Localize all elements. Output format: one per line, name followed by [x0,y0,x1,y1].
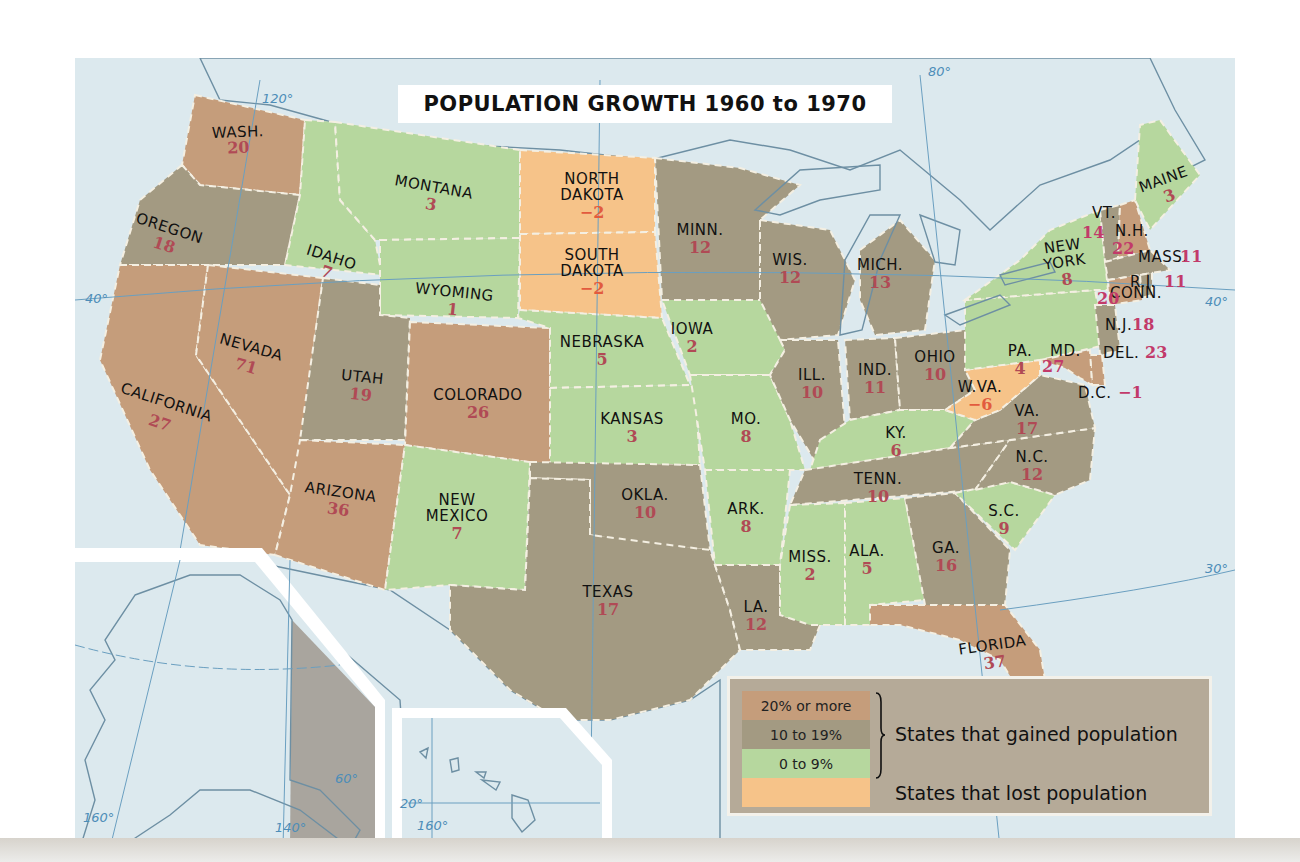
lat-40-west-label: 40° [85,291,108,306]
state-name-north-carolina: N.C. [1015,448,1048,466]
state-value-arizona: 36 [326,498,351,520]
state-label-louisiana: LA.12 [744,598,769,634]
state-value-louisiana: 12 [745,615,767,634]
state-value-south-carolina: 9 [998,519,1009,538]
state-name-georgia: GA. [932,539,960,557]
state-name-missouri: MO. [731,410,761,428]
legend-label-10-19: 10 to 19% [770,727,842,743]
state-name-south-dakota: DAKOTA [560,262,624,280]
state-name-iowa: IOWA [671,320,714,338]
lon-120-label: 120° [262,91,293,106]
state-value-new-jersey: 18 [1132,315,1154,334]
state-value-vermont: 14 [1082,223,1104,242]
state-value-georgia: 16 [935,556,957,575]
state-name-alabama: ALA. [849,542,885,560]
state-label-illinois: ILL.10 [798,366,826,402]
state-name-tennessee: TENN. [853,470,902,488]
state-value-north-carolina: 12 [1021,465,1043,484]
state-name-minnesota: MINN. [676,221,723,239]
state-name-wisconsin: WIS. [772,251,808,269]
state-value-massachusetts: 11 [1180,247,1202,266]
state-value-oklahoma: 10 [634,503,656,522]
state-value-west-virginia: −6 [968,395,993,414]
state-value-maryland: 27 [1042,357,1064,376]
state-value-arkansas: 8 [740,517,751,536]
state-value-michigan: 13 [869,273,891,292]
state-value-pennsylvania: 4 [1014,359,1025,378]
state-value-kentucky: 6 [890,441,901,460]
state-value-south-dakota: −2 [580,279,605,298]
lat-40-east-label: 40° [1205,294,1228,309]
hawaii-inset: 20° 160° [392,708,612,848]
state-value-connecticut: 20 [1097,289,1119,308]
state-name-texas: TEXAS [581,583,633,601]
hi-lon-160-label: 160° [417,818,448,833]
state-name-kentucky: KY. [885,424,907,442]
map-title-box: POPULATION GROWTH 1960 to 1970 [398,85,892,123]
state-value-tennessee: 10 [867,487,889,506]
state-value-mississippi: 2 [804,565,815,584]
legend-swatch-loss [742,778,870,807]
state-name-louisiana: LA. [744,598,769,616]
lon-80-label: 80° [928,64,951,79]
ak-lon-140-label: 140° [275,820,306,835]
state-value-indiana: 11 [864,378,886,397]
state-value-illinois: 10 [801,383,823,402]
lat-30-label: 30° [1205,561,1228,576]
legend-label-20-plus: 20% or more [761,698,852,714]
state-value-florida: 37 [982,651,1007,673]
state-value-ohio: 10 [924,365,946,384]
legend-label-0-9: 0 to 9% [779,756,833,772]
state-name-kansas: KANSAS [600,410,664,428]
state-name-arkansas: ARK. [727,500,764,518]
state-value-kansas: 3 [626,427,637,446]
legend-swatch-20-plus: 20% or more [742,691,870,720]
state-name-virginia: VA. [1014,402,1040,420]
state-value-alabama: 5 [861,559,872,578]
state-value-missouri: 8 [740,427,751,446]
state-value-iowa: 2 [686,337,697,356]
state-value-rhode-island: 11 [1164,272,1186,291]
state-label-georgia: GA.16 [932,539,960,575]
state-value-wyoming: 1 [446,299,459,319]
legend: 20% or more 10 to 19% 0 to 9% States tha… [727,676,1212,816]
state-name-new-jersey: N.J. [1105,316,1132,334]
state-name-vermont: VT. [1092,204,1116,222]
state-value-delaware: 23 [1145,343,1167,362]
state-name-mississippi: MISS. [788,548,832,566]
state-name-nebraska: NEBRASKA [560,333,645,351]
state-name-west-virginia: W.VA. [958,378,1002,396]
legend-swatch-10-19: 10 to 19% [742,720,870,749]
state-name-new-hampshire: N.H. [1115,222,1149,240]
state-name-colorado: COLORADO [433,386,522,404]
state-value-virginia: 17 [1016,419,1038,438]
state-value-new-mexico: 7 [451,524,462,543]
ak-lon-160-label: 160° [83,810,114,825]
state-value-district-of-columbia: −1 [1118,383,1143,402]
state-name-illinois: ILL. [798,366,826,384]
state-name-district-of-columbia: D.C. [1078,384,1112,402]
state-value-new-hampshire: 22 [1112,239,1134,258]
bottom-edge [0,838,1300,862]
legend-lost-label: States that lost population [895,782,1147,804]
state-value-nebraska: 5 [596,350,607,369]
state-value-minnesota: 12 [689,238,711,257]
state-label-virginia: VA.17 [1014,402,1040,438]
hi-lat-20-label: 20° [400,796,423,811]
state-name-south-carolina: S.C. [988,502,1020,520]
state-value-wash: 20 [227,138,250,158]
state-name-oklahoma: OKLA. [621,486,669,504]
state-name-indiana: IND. [858,361,892,379]
state-name-ohio: OHIO [914,348,955,366]
legend-brace [875,692,885,779]
state-value-wisconsin: 12 [779,268,801,287]
map-title: POPULATION GROWTH 1960 to 1970 [423,92,866,116]
legend-swatch-0-9: 0 to 9% [742,749,870,778]
state-name-new-mexico: MEXICO [426,507,488,525]
state-value-north-dakota: −2 [580,203,605,222]
state-name-delaware: DEL. [1103,344,1139,362]
state-value-utah: 19 [349,384,373,405]
state-name-pennsylvania: PA. [1008,342,1032,360]
state-value-colorado: 26 [467,403,489,422]
state-name-north-dakota: DAKOTA [560,186,624,204]
